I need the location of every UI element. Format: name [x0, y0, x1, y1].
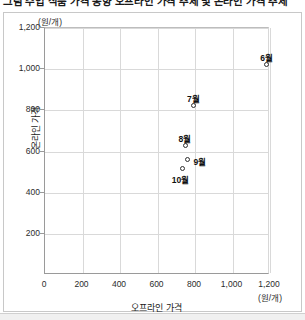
x-tick-label: 200 [62, 279, 102, 289]
data-point-label: 9월 [193, 155, 206, 167]
x-tick-label: 600 [137, 279, 177, 289]
x-tick-label: 1,200 [249, 279, 289, 289]
plot-area [44, 27, 269, 274]
gridline-horizontal [45, 193, 268, 194]
page-bottom-edge [0, 313, 305, 320]
y-tick-label: 800 [0, 104, 40, 114]
chart-screenshot: 그림 수입 식품 가격 동향 오프라인 가격 추세 및 온라인 가격 추세 (원… [0, 0, 305, 320]
gridline-horizontal [45, 152, 268, 153]
figure-title: 그림 수입 식품 가격 동향 오프라인 가격 추세 및 온라인 가격 추세 [3, 0, 288, 8]
gridline-horizontal [45, 234, 268, 235]
x-tick-label: 0 [24, 279, 64, 289]
y-tick-mark [40, 192, 44, 193]
gridline-vertical [158, 28, 159, 273]
y-tick-label: 200 [0, 228, 40, 238]
data-point-label: 6월 [260, 51, 273, 63]
y-tick-label: 400 [0, 187, 40, 197]
y-tick-label: 1,200 [0, 22, 40, 32]
gridline-horizontal [45, 28, 268, 29]
y-axis-unit-label: (원/개) [38, 15, 62, 27]
gridline-vertical [195, 28, 196, 273]
x-tick-label: 400 [99, 279, 139, 289]
y-tick-mark [40, 27, 44, 28]
data-point-label: 10월 [172, 173, 189, 185]
x-tick-label: 1,000 [212, 279, 252, 289]
y-tick-mark [40, 109, 44, 110]
y-tick-mark [40, 233, 44, 234]
gridline-horizontal [45, 110, 268, 111]
gridline-vertical [120, 28, 121, 273]
data-point-label: 7월 [187, 92, 200, 104]
y-tick-mark [40, 151, 44, 152]
x-tick-label: 800 [174, 279, 214, 289]
data-point-label: 8월 [179, 132, 192, 144]
gridline-vertical [270, 28, 271, 273]
gridline-vertical [233, 28, 234, 273]
figure-title-strip: 그림 수입 식품 가격 동향 오프라인 가격 추세 및 온라인 가격 추세 [0, 0, 305, 12]
gridline-vertical [83, 28, 84, 273]
y-tick-mark [40, 68, 44, 69]
data-point-marker [180, 166, 185, 171]
gridline-horizontal [45, 69, 268, 70]
y-tick-label: 1,000 [0, 63, 40, 73]
y-tick-label: 600 [0, 146, 40, 156]
